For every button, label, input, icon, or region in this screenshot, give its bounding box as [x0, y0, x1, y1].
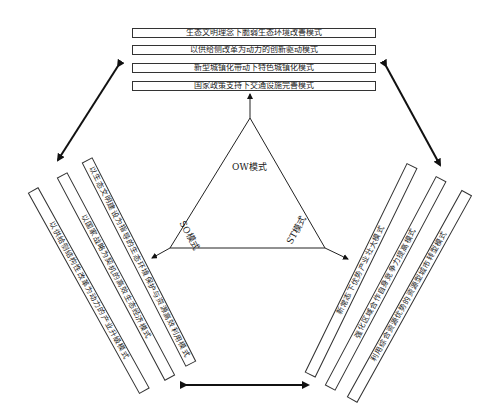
triangle-label-ow: OW模式	[232, 160, 267, 173]
left-double-arrow	[58, 66, 118, 160]
top-box-4: 国家政策支持下交通设施完善模式	[132, 81, 376, 91]
top-box-1: 生态文明理念下脆弱生态环境改善模式	[132, 28, 376, 38]
right-connector-arrow	[325, 248, 348, 259]
top-box-3: 新型城镇化带动下特色城镇化模式	[132, 63, 376, 73]
left-connector-arrow	[152, 248, 170, 258]
right-double-arrow	[386, 66, 440, 165]
top-box-2: 以供给侧改革为动力的创新驱动模式	[132, 45, 376, 55]
